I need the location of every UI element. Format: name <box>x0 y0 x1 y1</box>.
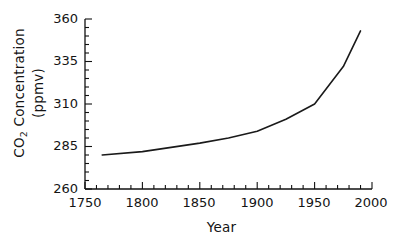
x-axis-ticks <box>85 182 372 189</box>
y-axis-title-subscript: 2 <box>18 131 29 137</box>
co2-concentration-chart: CO2 Concentration (ppmv) 360 335 310 285… <box>0 0 405 248</box>
y-tick-label-360: 360 <box>38 11 78 26</box>
x-tick-label-1800: 1800 <box>117 195 167 210</box>
x-tick-label-1750: 1750 <box>60 195 110 210</box>
x-tick-label-1950: 1950 <box>289 195 339 210</box>
y-tick-label-335: 335 <box>38 53 78 68</box>
y-axis-title-concentration: Concentration <box>11 28 27 131</box>
plot-svg <box>85 19 372 189</box>
x-tick-label-1850: 1850 <box>174 195 224 210</box>
axis-spines <box>85 19 372 189</box>
data-series-line <box>102 31 360 155</box>
y-axis-title-co2: CO <box>11 137 27 157</box>
plot-area <box>85 19 372 189</box>
y-tick-label-310: 310 <box>38 96 78 111</box>
y-axis-ticks <box>85 19 92 189</box>
x-axis-title-text: Year <box>207 219 236 235</box>
x-axis-title: Year <box>0 219 405 235</box>
y-tick-label-285: 285 <box>38 138 78 153</box>
x-tick-label-2000: 2000 <box>346 195 396 210</box>
y-tick-label-260: 260 <box>38 181 78 196</box>
x-tick-label-1900: 1900 <box>232 195 282 210</box>
